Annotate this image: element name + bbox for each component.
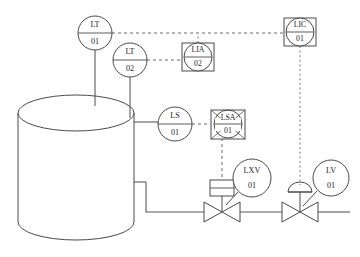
instrument-lic-01[interactable]: LIC 01 (284, 18, 316, 46)
lt01-function-label: LT (90, 20, 99, 29)
instrument-lia-02[interactable]: LIA 02 (182, 43, 214, 71)
valve-left-left-triangle (204, 202, 222, 222)
lic01-number-label: 01 (296, 34, 304, 43)
lia02-number-label: 02 (194, 59, 202, 68)
lxv01-bubble-circle (233, 159, 271, 197)
lia02-function-label: LIA (192, 45, 205, 54)
lv01-function-label: LV (326, 166, 336, 175)
ls01-function-label: LS (170, 111, 180, 120)
instrument-lv-01[interactable]: LV 01 (313, 160, 349, 196)
lxv01-function-label: LXV (244, 166, 261, 175)
lsa01-function-label: LSA (221, 113, 236, 122)
instrument-ls-01[interactable]: LS 01 (158, 107, 192, 141)
instrument-lt-02[interactable]: LT 02 (113, 43, 147, 77)
diaphragm-actuator-dome (288, 182, 312, 192)
instrument-lxv-01[interactable]: LXV 01 (233, 159, 271, 197)
lic01-function-label: LIC (294, 20, 307, 29)
tank-vessel (18, 95, 134, 240)
pid-svg: LT 01 LT 02 LIA 02 LIC 01 (0, 0, 360, 257)
lt02-number-label: 02 (126, 64, 134, 73)
valve-right-right-triangle (300, 202, 318, 222)
valve-left-right-triangle (222, 202, 240, 222)
instrument-lt-01[interactable]: LT 01 (78, 16, 112, 50)
ls01-number-label: 01 (171, 128, 179, 137)
valve-right[interactable] (282, 182, 318, 222)
tank-body (18, 113, 134, 240)
pipe-to-left-valve (146, 182, 204, 212)
lv01-number-label: 01 (327, 181, 335, 190)
lt01-number-label: 01 (91, 37, 99, 46)
lxv01-number-label: 01 (248, 181, 256, 190)
tank-top-ellipse (18, 95, 134, 131)
pid-diagram-canvas: LT 01 LT 02 LIA 02 LIC 01 (0, 0, 360, 257)
lsa01-number-label: 01 (224, 126, 232, 135)
instrument-lsa-01[interactable]: LSA 01 (211, 110, 245, 139)
lt02-function-label: LT (125, 47, 134, 56)
valve-right-left-triangle (282, 202, 300, 222)
